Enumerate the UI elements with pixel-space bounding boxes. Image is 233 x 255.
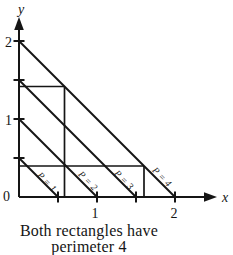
x-tick-label-1: 1 (92, 206, 99, 221)
iso-line-label-p1: P = 1 (35, 170, 59, 194)
x-axis-label: x (221, 190, 229, 205)
x-axis-arrowhead (204, 192, 217, 202)
y-axis-arrowhead (14, 17, 24, 30)
perimeter-diagram: yx21012P = 1P = 2P = 3P = 4 (0, 0, 233, 223)
figure-page: yx21012P = 1P = 2P = 3P = 4 Both rectang… (0, 0, 233, 255)
y-tick-label-2: 2 (5, 35, 12, 50)
y-tick-label-1: 1 (5, 113, 12, 128)
origin-label: 0 (3, 189, 10, 204)
caption-line-1: Both rectangles have (0, 223, 178, 239)
y-axis-label: y (16, 2, 25, 17)
x-tick-label-2: 2 (171, 206, 178, 221)
figure-caption: Both rectangles have perimeter 4 (0, 223, 178, 255)
caption-line-2: perimeter 4 (0, 239, 178, 255)
iso-line-label-p3: P = 3 (112, 168, 136, 192)
